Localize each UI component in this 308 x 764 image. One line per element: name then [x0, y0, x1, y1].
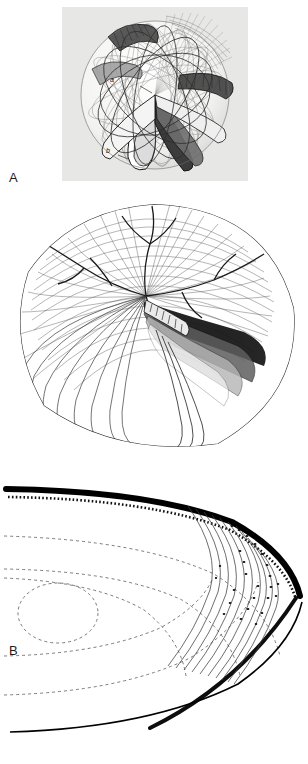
panel-c: ANTERIOR CAPSULE CORTEX ADULT NUCLEUS FE… [0, 470, 308, 764]
panel-b: B [0, 196, 308, 468]
panel-c-artwork [0, 470, 308, 750]
panel-letter-a: A [9, 170, 18, 185]
panel-a-plate: a b [62, 7, 248, 181]
lens-fiber-figure: a b A [0, 0, 308, 764]
panel-b-artwork [6, 200, 302, 450]
suture-label-b: b [106, 147, 110, 154]
panel-a-artwork [62, 7, 248, 181]
suture-label-a: a [110, 76, 114, 83]
panel-a: a b A [0, 0, 308, 196]
